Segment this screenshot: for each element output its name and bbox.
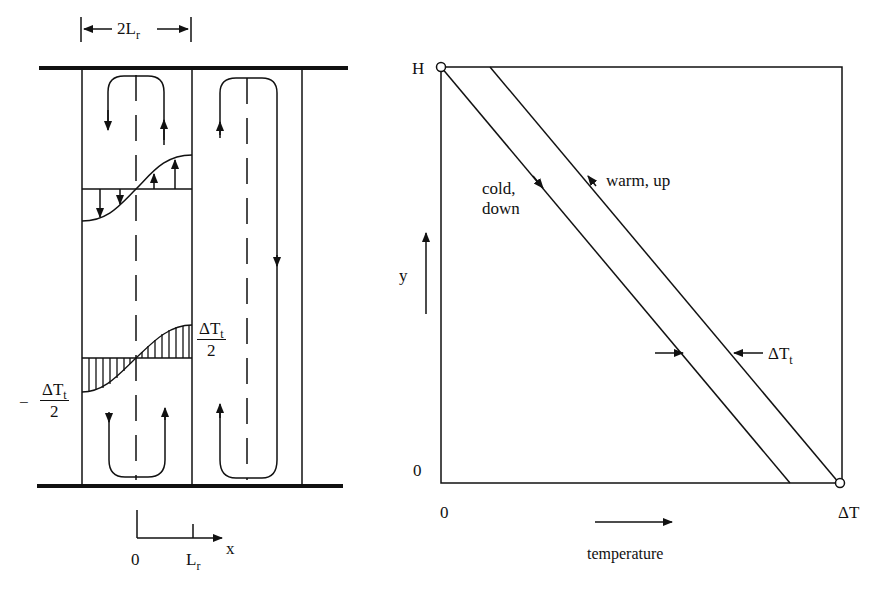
gap-label: ΔTt — [768, 345, 793, 362]
x-origin-label: 0 — [131, 551, 140, 568]
y-axis-label: y — [399, 267, 408, 284]
x-axis-label: x — [226, 540, 235, 557]
cold-down-line — [441, 67, 790, 483]
plot-frame — [441, 67, 842, 483]
x-axis-label: temperature — [587, 546, 663, 562]
upper-profile-label: ΔTt 2 — [197, 320, 226, 359]
x-tick-label: Lr — [186, 551, 200, 568]
cold-label-line2: down — [482, 200, 520, 217]
y-bottom-label: 0 — [413, 462, 422, 479]
circulation-loop-right — [220, 78, 277, 478]
top-left-point — [437, 63, 446, 72]
bottom-right-point — [836, 479, 845, 488]
left-panel — [37, 17, 348, 538]
negative-sign: − — [19, 394, 29, 411]
right-panel — [426, 63, 845, 523]
circulation-arrow-bottom-left — [109, 410, 165, 477]
y-top-label: H — [412, 60, 424, 77]
lower-profile-label: ΔTt 2 — [40, 381, 69, 420]
x-axis-left — [137, 510, 222, 538]
width-label: 2Lr — [117, 20, 140, 37]
velocity-profile — [82, 155, 192, 221]
warm-label: warm, up — [606, 172, 670, 189]
warm-up-line — [490, 67, 839, 483]
temperature-profile — [82, 325, 192, 392]
cold-label-line1: cold, — [482, 180, 516, 197]
x-right-label: ΔT — [838, 504, 859, 521]
x-left-label: 0 — [440, 504, 449, 521]
